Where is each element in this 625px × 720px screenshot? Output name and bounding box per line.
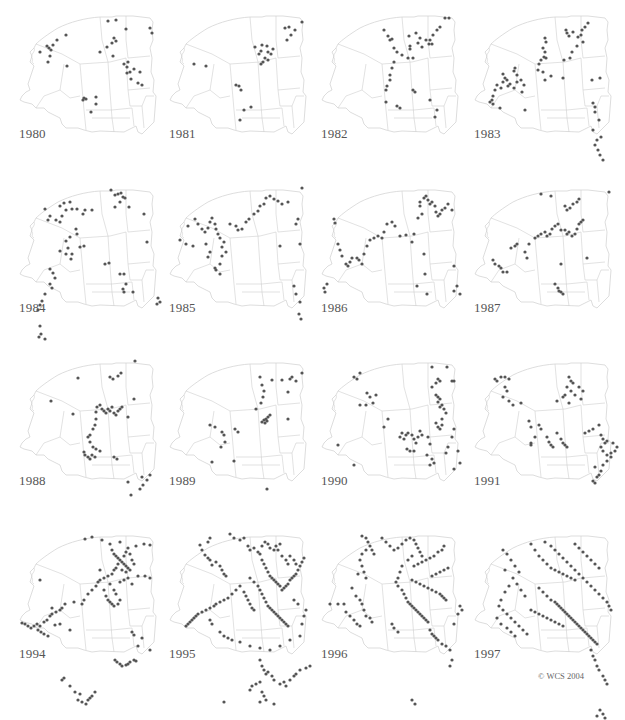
occurrence-dot <box>551 445 554 448</box>
occurrence-dot <box>565 31 568 34</box>
occurrence-dot <box>218 236 221 239</box>
occurrence-dot <box>587 429 590 432</box>
occurrence-dot <box>94 447 97 450</box>
occurrence-dot <box>269 52 272 55</box>
occurrence-dot <box>601 712 604 715</box>
occurrence-dot <box>246 544 249 547</box>
occurrence-dot <box>262 596 265 599</box>
occurrence-dot <box>113 205 116 208</box>
occurrence-dot <box>598 708 601 711</box>
occurrence-dot <box>110 41 113 44</box>
occurrence-dot <box>260 43 263 46</box>
occurrence-dot <box>493 262 496 265</box>
occurrence-dot <box>208 558 211 561</box>
occurrence-dot <box>430 365 433 368</box>
occurrence-dot <box>254 407 257 410</box>
map-panel-1981: 1981 <box>150 0 310 180</box>
occurrence-dot <box>589 648 592 651</box>
occurrence-dot <box>370 548 373 551</box>
occurrence-dot <box>565 574 568 577</box>
occurrence-dot <box>124 27 127 30</box>
occurrence-dot <box>609 455 612 458</box>
occurrence-dot <box>268 413 271 416</box>
occurrence-dot <box>126 415 129 418</box>
occurrence-dot <box>438 379 441 382</box>
occurrence-dot <box>557 622 560 625</box>
occurrence-dot <box>358 598 361 601</box>
map-panel-1985: 1985 <box>150 174 310 354</box>
occurrence-dot <box>392 626 395 629</box>
occurrence-dot <box>54 610 57 613</box>
occurrence-dot <box>238 118 241 121</box>
occurrence-dot <box>450 208 453 211</box>
occurrence-dot <box>527 419 530 422</box>
occurrence-dot <box>64 33 67 36</box>
occurrence-dot <box>573 232 576 235</box>
occurrence-dot <box>111 54 114 57</box>
occurrence-dot <box>390 37 393 40</box>
occurrence-dot <box>98 403 101 406</box>
occurrence-dot <box>392 60 395 63</box>
occurrence-dot <box>425 292 428 295</box>
occurrence-dot <box>543 78 546 81</box>
occurrence-dot <box>119 191 122 194</box>
occurrence-dot <box>537 423 540 426</box>
occurrence-dot <box>290 375 293 378</box>
occurrence-dot <box>104 411 107 414</box>
occurrence-dot <box>563 228 566 231</box>
occurrence-dot <box>507 399 510 402</box>
occurrence-dot <box>102 588 105 591</box>
occurrence-dot <box>581 550 584 553</box>
occurrence-dot <box>570 50 573 53</box>
occurrence-dot <box>499 598 502 601</box>
occurrence-dot <box>196 222 199 225</box>
occurrence-dot <box>393 224 396 227</box>
occurrence-dot <box>268 546 271 549</box>
occurrence-dot <box>124 550 127 553</box>
occurrence-dot <box>248 688 251 691</box>
year-label: 1987 <box>474 300 501 316</box>
occurrence-dot <box>586 21 589 24</box>
occurrence-dot <box>422 252 425 255</box>
occurrence-dot <box>94 102 97 105</box>
occurrence-dot <box>414 542 417 545</box>
occurrence-dot <box>62 676 65 679</box>
occurrence-dot <box>226 636 229 639</box>
occurrence-dot <box>499 375 502 378</box>
occurrence-dot <box>58 622 61 625</box>
occurrence-dot <box>271 47 274 50</box>
occurrence-dot <box>294 379 297 382</box>
occurrence-dot <box>228 222 231 225</box>
occurrence-dot <box>104 594 107 597</box>
occurrence-dot <box>438 570 441 573</box>
occurrence-dot <box>597 668 600 671</box>
occurrence-dot <box>549 544 552 547</box>
occurrence-dot <box>283 26 286 29</box>
occurrence-dot <box>396 584 399 587</box>
occurrence-dot <box>573 542 576 545</box>
occurrence-dot <box>493 88 496 91</box>
occurrence-dot <box>75 207 78 210</box>
occurrence-dot <box>240 227 243 230</box>
occurrence-dot <box>573 393 576 396</box>
occurrence-dot <box>505 612 508 615</box>
occurrence-dot <box>332 217 335 220</box>
occurrence-dot <box>570 234 573 237</box>
occurrence-dot <box>213 425 216 428</box>
occurrence-dot <box>435 108 438 111</box>
occurrence-dot <box>94 410 97 413</box>
occurrence-dot <box>93 690 96 693</box>
occurrence-dot <box>120 664 123 667</box>
occurrence-dot <box>358 558 361 561</box>
occurrence-dot <box>450 658 453 661</box>
occurrence-dot <box>260 383 263 386</box>
occurrence-dot <box>412 232 415 235</box>
occurrence-dot <box>234 588 237 591</box>
occurrence-dot <box>412 564 415 567</box>
occurrence-dot <box>503 385 506 388</box>
occurrence-dot <box>396 630 399 633</box>
occurrence-dot <box>428 442 431 445</box>
year-label: 1995 <box>169 646 196 662</box>
occurrence-dot <box>252 580 255 583</box>
occurrence-dot <box>607 604 610 607</box>
